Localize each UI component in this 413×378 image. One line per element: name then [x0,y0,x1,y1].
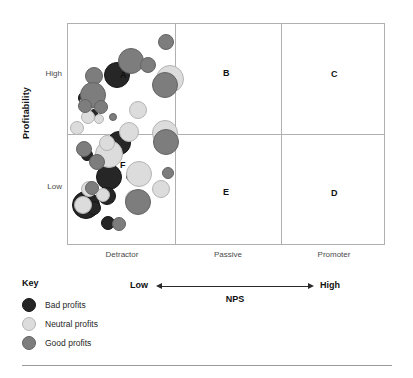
bubble-good-7 [94,100,108,114]
nps-axis-title: NPS [130,294,340,304]
quadrant-label-c: C [331,70,338,79]
legend-item-bad-profits: Bad profits [22,295,98,314]
bubble-good-4 [152,72,178,98]
bottom-divider [22,365,392,366]
x-tick-promoter: Promoter [279,250,389,259]
bubble-neutral-17 [74,196,92,214]
bubble-neutral-7 [119,122,139,142]
bubble-good-15 [112,217,126,231]
bubble-good-14 [125,189,151,215]
quadrant-label-f: F [120,161,126,170]
bubble-chart-plot-area: ABCDEF [67,23,385,245]
legend-swatch-icon [22,317,36,331]
bubble-good-12 [162,167,174,179]
bubble-neutral-11 [99,135,115,151]
bubble-neutral-6 [70,121,84,135]
quadrant-label-e: E [223,188,229,197]
quadrant-label-b: B [223,69,230,78]
nps-low-label: Low [130,280,148,290]
y-tick-high: High [30,69,62,78]
x-tick-passive: Passive [173,250,283,259]
quadrant-label-d: D [331,189,338,198]
arrow-left-icon [156,283,162,289]
bubble-good-8 [109,113,117,121]
bubble-good-2 [140,57,156,73]
y-tick-low: Low [30,182,62,191]
bubble-neutral-15 [152,180,170,198]
bubble-neutral-4 [94,114,104,124]
bubble-good-13 [85,181,99,195]
legend-title: Key [22,278,98,288]
x-tick-detractor: Detractor [67,250,177,259]
legend-item-good-profits: Good profits [22,333,98,352]
legend-label: Bad profits [45,300,86,310]
bubble-good-9 [153,129,179,155]
nps-high-label: High [320,280,340,290]
nps-arrow-line [162,286,308,287]
legend-label: Neutral profits [45,319,98,329]
bubble-good-10 [76,141,92,157]
bubble-good-11 [89,154,105,170]
legend-swatch-icon [22,336,36,350]
bubble-neutral-12 [126,161,152,187]
nps-axis: Low High NPS [130,280,340,310]
bubble-neutral-5 [129,101,147,119]
quadrant-label-a: A [120,71,127,80]
arrow-right-icon [308,283,314,289]
legend: Key Bad profitsNeutral profitsGood profi… [22,278,98,352]
y-axis-title: Profitability [21,68,31,158]
legend-item-neutral-profits: Neutral profits [22,314,98,333]
legend-swatch-icon [22,298,36,312]
bubble-good-0 [158,34,174,50]
legend-label: Good profits [45,338,91,348]
bubble-good-6 [78,99,92,113]
legend-rows: Bad profitsNeutral profitsGood profits [22,295,98,352]
